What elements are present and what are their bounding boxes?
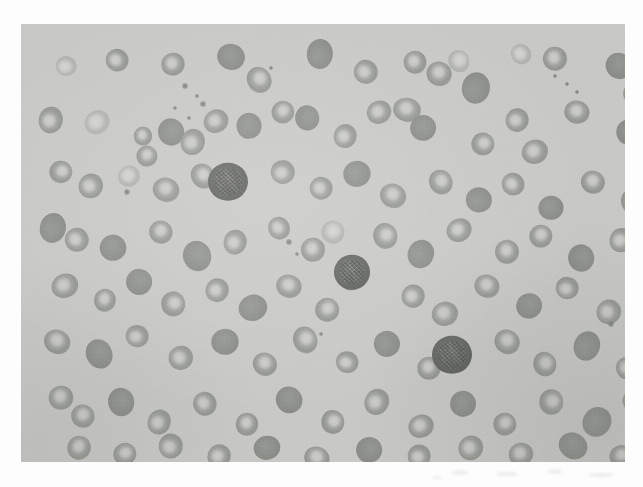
red-blood-cell [270,381,308,419]
red-blood-cell [470,131,495,156]
red-blood-cell [321,409,346,435]
red-blood-cell [47,269,82,303]
scan-smudge [588,473,614,477]
red-blood-cell [406,443,432,462]
red-blood-cell [605,224,625,256]
red-blood-cell [501,104,532,136]
red-blood-cell [402,49,429,75]
red-blood-cell [189,388,221,420]
red-blood-cell [149,174,182,206]
scan-smudge [496,472,518,476]
red-blood-cell [160,291,186,318]
red-blood-cell [300,237,325,262]
platelet [195,94,199,98]
red-blood-cell [164,341,199,376]
red-blood-cell [453,430,488,462]
red-blood-cell [67,400,100,432]
red-blood-cell [403,236,438,273]
red-blood-cell [507,441,534,462]
red-blood-cell [236,112,263,140]
red-blood-cell [537,194,565,222]
white-blood-cell [334,255,370,290]
red-blood-cell [531,349,559,379]
red-blood-cell [121,264,158,301]
scan-smudge [452,470,468,475]
platelet [286,239,292,245]
red-blood-cell [606,442,625,462]
red-blood-cell [203,440,236,462]
red-blood-cell [201,274,233,306]
red-blood-cell [220,227,249,258]
red-blood-cell [305,172,337,204]
red-blood-cell [566,242,596,273]
red-blood-cell [489,324,524,359]
red-blood-cell [56,56,77,76]
red-blood-cell [134,126,153,145]
red-blood-cell [101,44,132,75]
red-blood-cell [80,105,114,139]
red-blood-cell [459,70,492,106]
red-blood-cell [562,98,592,126]
red-blood-cell [132,141,161,170]
red-blood-cell [489,408,521,440]
red-blood-cell [36,104,67,136]
red-blood-cell [518,136,552,169]
red-blood-cell [601,48,625,85]
red-blood-cell [333,349,361,376]
red-blood-cell [270,159,296,184]
red-blood-cell [623,273,625,299]
red-blood-cell [507,40,536,69]
red-blood-cell [158,433,184,460]
red-blood-cell [40,325,75,359]
red-blood-cell [48,385,75,411]
red-blood-cell [376,179,410,212]
white-blood-cell [208,163,248,201]
red-blood-cell [405,411,437,442]
red-blood-cell [49,160,72,183]
red-blood-cell [370,220,400,251]
red-blood-cell [360,384,395,420]
red-blood-cell [569,327,604,364]
red-blood-cell [74,169,108,204]
platelet [200,101,206,107]
red-blood-cell [64,433,94,462]
red-blood-cell [616,185,625,219]
platelet [173,106,177,110]
red-blood-cell [351,432,386,462]
red-blood-cell [306,38,335,70]
red-blood-cell [341,158,374,190]
red-blood-cell [273,271,304,300]
scan-page [0,0,643,487]
red-blood-cell [235,291,271,326]
red-blood-cell [267,96,299,128]
platelet [319,332,323,336]
red-blood-cell [349,55,383,89]
red-blood-cell [539,389,564,415]
red-blood-cell [577,166,609,197]
red-blood-cell [213,40,249,75]
red-blood-cell [542,46,569,73]
red-blood-cell [179,237,216,275]
blood-smear-photomicrograph [21,24,625,462]
red-blood-cell [555,276,580,301]
red-blood-cell [497,168,529,200]
scan-smudge [548,469,562,474]
red-blood-cell [81,335,118,373]
red-blood-cell [464,186,494,215]
platelet [608,321,614,327]
red-blood-cell [124,323,150,349]
red-blood-cell [369,326,406,363]
platelet [269,66,273,70]
red-blood-cell [92,287,118,314]
red-blood-cell [397,280,429,312]
platelet [553,74,557,78]
red-blood-cell [159,50,188,78]
red-blood-cell [363,96,395,128]
red-blood-cell [289,323,322,357]
red-blood-cell [429,299,461,329]
platelet [187,116,191,120]
red-blood-cell [620,386,625,415]
red-blood-cell [292,103,321,133]
red-blood-cell [310,293,344,327]
red-blood-cell [234,411,260,437]
